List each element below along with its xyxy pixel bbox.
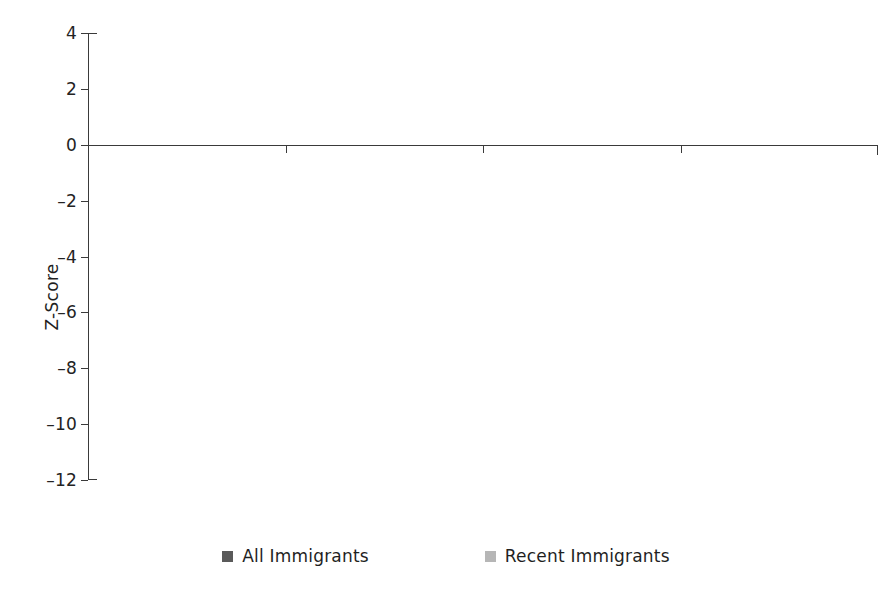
legend-label: All Immigrants (242, 546, 369, 566)
y-axis-top-cap (88, 33, 97, 34)
y-axis-tick (81, 424, 88, 425)
plot-area: 420–2–4–6–8–10–12 (88, 33, 878, 480)
y-axis-tick-label: 2 (66, 79, 77, 99)
y-axis-tick (81, 312, 88, 313)
y-axis-tick-label: –10 (46, 414, 77, 434)
legend-swatch-icon (485, 551, 496, 562)
x-axis-tick (483, 145, 484, 153)
y-axis-tick (81, 201, 88, 202)
y-axis-tick (81, 33, 88, 34)
y-axis-tick (81, 368, 88, 369)
zero-baseline (88, 145, 878, 146)
y-axis-tick (81, 89, 88, 90)
y-axis-tick-label: 4 (66, 23, 77, 43)
x-axis-tick (286, 145, 287, 153)
y-axis-tick (81, 145, 88, 146)
y-axis-tick-label: –4 (57, 247, 77, 267)
legend-label: Recent Immigrants (505, 546, 670, 566)
y-axis-tick (81, 480, 88, 481)
chart-legend: All Immigrants Recent Immigrants (0, 546, 892, 566)
y-axis-tick-label: –6 (57, 302, 77, 322)
y-axis-bottom-cap (88, 479, 97, 480)
legend-item-all-immigrants[interactable]: All Immigrants (222, 546, 369, 566)
x-axis-end-cap (877, 146, 878, 155)
y-axis-tick-label: 0 (66, 135, 77, 155)
y-axis-tick-label: –12 (46, 470, 77, 490)
y-axis-tick-label: –8 (57, 358, 77, 378)
y-axis-tick-label: –2 (57, 191, 77, 211)
legend-item-recent-immigrants[interactable]: Recent Immigrants (485, 546, 670, 566)
legend-swatch-icon (222, 551, 233, 562)
y-axis-tick (81, 257, 88, 258)
z-score-bar-chart: Z-Score 420–2–4–6–8–10–12 All Immigrants… (0, 0, 892, 593)
x-axis-tick (681, 145, 682, 153)
y-axis-line (88, 33, 89, 480)
